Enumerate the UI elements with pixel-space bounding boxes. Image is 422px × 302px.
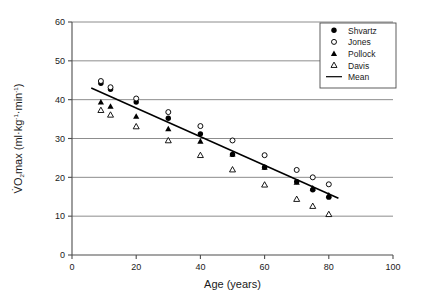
point-jones-2 <box>134 96 139 101</box>
legend-label-jones: Jones <box>348 37 371 47</box>
point-davis-2 <box>133 123 139 128</box>
point-davis-9 <box>326 211 332 216</box>
mean-trendline <box>91 88 338 198</box>
x-tick-label-40: 40 <box>195 262 205 272</box>
point-jones-9 <box>326 182 331 187</box>
y-tick-label-40: 40 <box>55 95 65 105</box>
point-pollock-1 <box>107 103 113 109</box>
legend-marker-jones <box>332 39 337 44</box>
y-tick-label-60: 60 <box>55 17 65 27</box>
x-tick-label-0: 0 <box>69 262 74 272</box>
x-tick-label-60: 60 <box>260 262 270 272</box>
point-pollock-3 <box>165 126 171 132</box>
y-tick-label-50: 50 <box>55 56 65 66</box>
x-tick-label-80: 80 <box>324 262 334 272</box>
legend-label-pollock: Pollock <box>348 49 376 59</box>
vo2max-scatter-chart: 0102030405060020406080100Age (years)V̇O2… <box>0 0 422 302</box>
point-jones-1 <box>108 85 113 90</box>
point-davis-1 <box>108 112 114 117</box>
x-axis-title: Age (years) <box>204 278 261 290</box>
legend-marker-shvartz <box>331 28 336 33</box>
y-axis-ticks: 0102030405060 <box>55 17 72 260</box>
point-jones-4 <box>198 124 203 129</box>
y-tick-label-30: 30 <box>55 134 65 144</box>
series-jones <box>98 79 331 187</box>
point-jones-7 <box>294 167 299 172</box>
point-jones-6 <box>262 153 267 158</box>
point-davis-8 <box>310 203 316 208</box>
legend-label-davis: Davis <box>348 61 369 71</box>
legend: ShvartzJonesPollockDavisMean <box>320 23 396 88</box>
point-jones-3 <box>166 110 171 115</box>
point-davis-7 <box>294 196 300 201</box>
y-tick-label-0: 0 <box>60 250 65 260</box>
x-tick-label-20: 20 <box>131 262 141 272</box>
y-tick-label-10: 10 <box>55 211 65 221</box>
y-tick-label-20: 20 <box>55 173 65 183</box>
series-pollock <box>98 99 332 198</box>
point-jones-0 <box>98 79 103 84</box>
point-pollock-2 <box>133 113 139 119</box>
point-davis-0 <box>98 107 104 112</box>
x-tick-label-100: 100 <box>385 262 400 272</box>
legend-label-mean: Mean <box>348 72 370 82</box>
x-axis-ticks: 020406080100 <box>69 255 400 272</box>
series-davis <box>98 107 332 216</box>
legend-label-shvartz: Shvartz <box>348 26 377 36</box>
point-jones-5 <box>230 138 235 143</box>
point-davis-4 <box>197 152 203 157</box>
point-davis-5 <box>230 167 236 172</box>
point-davis-6 <box>262 182 268 187</box>
y-axis-title: V̇O2max (ml·kg-1·min-1) <box>12 84 25 194</box>
point-jones-8 <box>310 175 315 180</box>
point-shvartz-3 <box>166 116 171 121</box>
chart-figure: 0102030405060020406080100Age (years)V̇O2… <box>0 0 422 302</box>
